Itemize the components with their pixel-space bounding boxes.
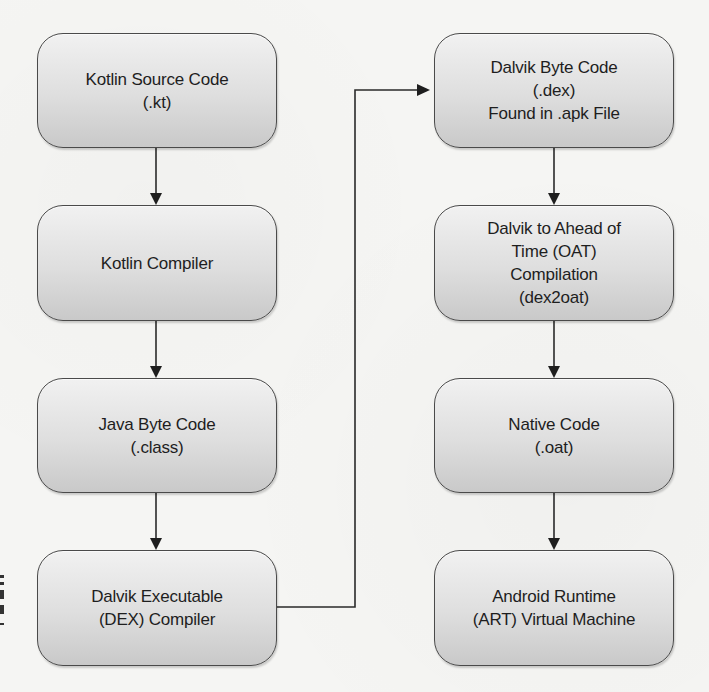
arrowhead-icon — [548, 193, 560, 205]
node-label: (DEX) Compiler — [99, 608, 215, 631]
node-dalvik-byte-code: Dalvik Byte Code (.dex) Found in .apk Fi… — [434, 33, 674, 148]
arrowhead-icon — [150, 366, 162, 378]
node-label: Dalvik Executable — [91, 585, 223, 608]
node-label: Dalvik Byte Code — [490, 56, 617, 79]
node-art-virtual-machine: Android Runtime (ART) Virtual Machine — [434, 550, 674, 666]
arrowhead-icon — [417, 84, 430, 96]
node-label: Kotlin Source Code — [86, 68, 229, 91]
node-label: Native Code — [508, 413, 599, 436]
node-label: (ART) Virtual Machine — [473, 608, 635, 631]
node-label: Android Runtime — [492, 585, 616, 608]
node-label: Java Byte Code — [98, 413, 215, 436]
edge-dex-compiler-to-dalvik-bytecode — [276, 90, 420, 607]
node-dex-compiler: Dalvik Executable (DEX) Compiler — [37, 550, 277, 666]
node-label: Found in .apk File — [488, 102, 620, 125]
arrowhead-icon — [548, 538, 560, 550]
node-kotlin-compiler: Kotlin Compiler — [37, 205, 277, 321]
node-label: Compilation — [510, 263, 598, 286]
node-kotlin-source-code: Kotlin Source Code (.kt) — [37, 33, 277, 148]
node-native-code: Native Code (.oat) — [434, 378, 674, 493]
node-label: Dalvik to Ahead of — [487, 217, 620, 240]
node-label: (.class) — [130, 436, 183, 459]
page-edge-marks — [0, 575, 4, 627]
node-dex2oat: Dalvik to Ahead of Time (OAT) Compilatio… — [434, 205, 674, 321]
diagram-canvas: Kotlin Source Code (.kt) Kotlin Compiler… — [0, 0, 709, 692]
node-label: (.kt) — [143, 91, 171, 114]
node-label: (.dex) — [533, 79, 575, 102]
arrowhead-icon — [548, 366, 560, 378]
node-label: Time (OAT) — [512, 240, 597, 263]
node-label: Kotlin Compiler — [101, 252, 213, 275]
arrowhead-icon — [150, 538, 162, 550]
node-label: (.oat) — [535, 436, 573, 459]
arrowhead-icon — [150, 193, 162, 205]
node-java-byte-code: Java Byte Code (.class) — [37, 378, 277, 493]
node-label: (dex2oat) — [519, 286, 589, 309]
